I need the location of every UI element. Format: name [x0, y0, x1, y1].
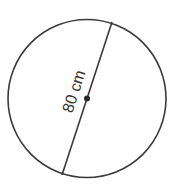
center-dot [84, 96, 90, 102]
circle-diagram: 80 cm [0, 0, 173, 185]
